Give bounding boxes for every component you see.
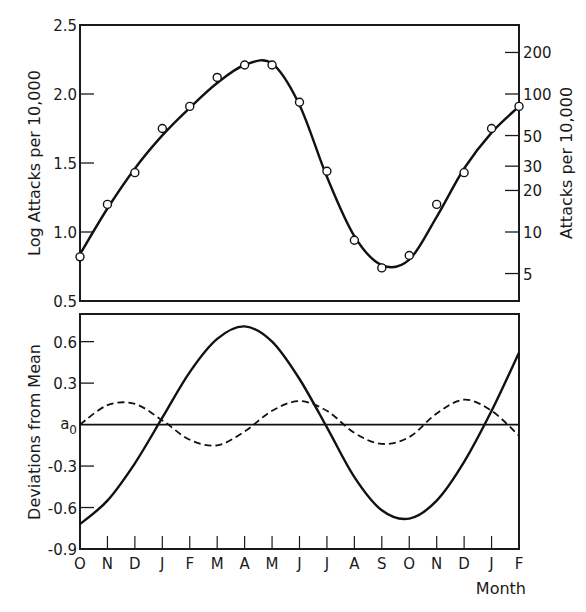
observed-data-point — [103, 200, 111, 208]
bottom-y-tick-label: 0.3 — [53, 375, 77, 393]
observed-data-point — [350, 236, 358, 244]
month-tick-label: D — [129, 555, 141, 573]
month-tick-label: M — [266, 555, 279, 573]
observed-data-point — [158, 125, 166, 133]
right-y-tick-label: 200 — [523, 44, 552, 62]
month-tick-label: O — [74, 555, 86, 573]
bottom-y-tick-label: -0.9 — [48, 541, 77, 559]
observed-data-point — [378, 264, 386, 272]
observed-data-point — [433, 200, 441, 208]
month-tick-label: D — [458, 555, 470, 573]
month-tick-label: J — [488, 555, 493, 573]
top-plot-frame — [80, 25, 519, 301]
observed-data-point — [296, 98, 304, 106]
observed-data-point — [323, 167, 331, 175]
x-axis-title: Month — [476, 579, 526, 598]
observed-data-point — [186, 102, 194, 110]
bottom-y-tick-label: -0.3 — [48, 458, 77, 476]
month-tick-label: A — [349, 555, 360, 573]
top-panel-log-attacks: 0.51.01.52.02.5510203050100200Log Attack… — [25, 17, 576, 311]
fitted-curve — [80, 60, 519, 267]
observed-data-point — [76, 253, 84, 261]
observed-data-point — [241, 61, 249, 69]
bottom-y-tick-label: 0.6 — [53, 334, 77, 352]
month-tick-label: N — [431, 555, 442, 573]
month-tick-label: F — [515, 555, 524, 573]
observed-data-point — [460, 169, 468, 177]
month-tick-label: J — [324, 555, 329, 573]
right-y-tick-label: 20 — [523, 182, 542, 200]
zero-tick-label-a0: a0 — [60, 415, 77, 437]
left-y-tick-label: 1.5 — [53, 155, 77, 173]
observed-data-point — [488, 125, 496, 133]
left-y-tick-label: 1.0 — [53, 224, 77, 242]
right-y-tick-label: 10 — [523, 224, 542, 242]
observed-data-point — [131, 169, 139, 177]
month-tick-label: F — [185, 555, 194, 573]
right-y-tick-label: 30 — [523, 158, 542, 176]
month-tick-label: A — [239, 555, 250, 573]
right-y-axis-title: Attacks per 10,000 — [557, 87, 576, 239]
month-tick-label: N — [102, 555, 113, 573]
month-tick-label: O — [403, 555, 415, 573]
left-y-tick-label: 2.0 — [53, 86, 77, 104]
bottom-y-tick-label: -0.6 — [48, 500, 77, 518]
observed-data-point — [515, 102, 523, 110]
left-y-tick-label: 0.5 — [53, 293, 77, 311]
observed-data-point — [213, 73, 221, 81]
right-y-tick-label: 50 — [523, 128, 542, 146]
left-y-tick-label: 2.5 — [53, 17, 77, 35]
second-harmonic-curve — [80, 400, 519, 446]
month-tick-label: M — [211, 555, 224, 573]
bottom-panel-deviations: -0.9-0.6-0.3a00.30.6Deviations from Mean… — [25, 314, 523, 573]
figure: 0.51.01.52.02.5510203050100200Log Attack… — [0, 0, 586, 612]
chart-canvas: 0.51.01.52.02.5510203050100200Log Attack… — [0, 0, 586, 612]
observed-data-point — [268, 61, 276, 69]
left-y-axis-title: Log Attacks per 10,000 — [25, 70, 44, 256]
right-y-tick-label: 100 — [523, 86, 552, 104]
bottom-plot-frame — [80, 314, 519, 549]
right-y-tick-label: 5 — [523, 266, 533, 284]
month-tick-label: J — [159, 555, 164, 573]
observed-data-point — [405, 251, 413, 259]
bottom-y-axis-title: Deviations from Mean — [25, 344, 44, 520]
month-tick-label: J — [296, 555, 301, 573]
month-tick-label: S — [377, 555, 387, 573]
